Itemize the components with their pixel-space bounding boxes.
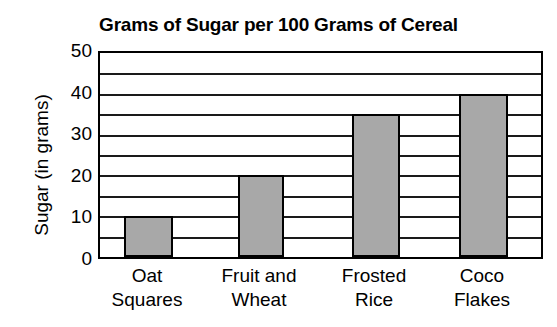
- y-tick-label-40: 40: [36, 83, 92, 102]
- x-tick-label-coco-flakes-line1: Coco: [427, 264, 537, 288]
- bar-oat-squares: [124, 216, 173, 257]
- y-tick-label-10: 10: [36, 207, 92, 226]
- x-axis-tick-labels: Oat Squares Fruit and Wheat Frosted Rice…: [98, 264, 543, 322]
- x-tick-label-oat-squares-line1: Oat: [92, 264, 202, 288]
- x-tick-label-oat-squares: Oat Squares: [92, 264, 202, 312]
- plot-area: [98, 51, 543, 259]
- x-tick-label-fruit-and-wheat-line2: Wheat: [204, 288, 314, 312]
- x-tick-label-fruit-and-wheat-line1: Fruit and: [204, 264, 314, 288]
- x-tick-label-coco-flakes-line2: Flakes: [427, 288, 537, 312]
- x-tick-label-frosted-rice-line1: Frosted: [319, 264, 429, 288]
- x-tick-label-coco-flakes: Coco Flakes: [427, 264, 537, 312]
- x-tick-label-fruit-and-wheat: Fruit and Wheat: [204, 264, 314, 312]
- y-tick-label-50: 50: [36, 41, 92, 60]
- y-tick-label-20: 20: [36, 166, 92, 185]
- y-axis-tick-labels: 0 10 20 30 40 50: [36, 51, 92, 259]
- chart-title: Grams of Sugar per 100 Grams of Cereal: [0, 14, 557, 36]
- bars-layer: [100, 53, 541, 257]
- bar-frosted-rice: [352, 114, 400, 257]
- x-tick-label-oat-squares-line2: Squares: [92, 288, 202, 312]
- bar-coco-flakes: [459, 94, 508, 257]
- y-tick-label-30: 30: [36, 124, 92, 143]
- x-tick-label-frosted-rice-line2: Rice: [319, 288, 429, 312]
- bar-fruit-and-wheat: [238, 175, 284, 257]
- x-tick-label-frosted-rice: Frosted Rice: [319, 264, 429, 312]
- y-tick-label-0: 0: [36, 249, 92, 268]
